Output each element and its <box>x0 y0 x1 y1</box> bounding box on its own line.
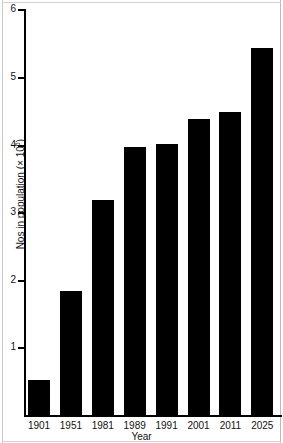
y-axis-tick-label: 5 <box>2 72 16 82</box>
bar-1991 <box>156 144 178 416</box>
x-axis-tick-label: 1991 <box>150 420 184 431</box>
y-axis-title-prefix: Nos in population (× 10 <box>15 146 26 249</box>
y-axis-tick-label: 6 <box>2 4 16 14</box>
bar-1951 <box>60 291 82 416</box>
y-axis-tick-mark <box>18 77 25 79</box>
bar-1981 <box>92 200 114 416</box>
x-axis-tick-label: 1989 <box>118 420 152 431</box>
bar-2001 <box>188 119 210 416</box>
bar-1901 <box>28 380 50 416</box>
bar-chart-plot-area: 654321 19011951198119891991200120112025 … <box>0 0 283 443</box>
y-axis-title: Nos in population (× 106) <box>14 119 26 269</box>
x-axis-tick-label: 1901 <box>22 420 56 431</box>
x-axis-tick-label: 2011 <box>213 420 247 431</box>
x-axis-tick-label: 1981 <box>86 420 120 431</box>
figure-canvas: 654321 19011951198119891991200120112025 … <box>0 0 283 443</box>
x-axis-tick-label: 2001 <box>182 420 216 431</box>
x-axis-tick-label: 2025 <box>245 420 279 431</box>
bar-1989 <box>124 147 146 416</box>
y-axis-tick-mark <box>18 347 25 349</box>
y-axis-tick-mark <box>18 280 25 282</box>
y-axis-tick-label: 1 <box>2 342 16 352</box>
y-axis-title-exponent: 6 <box>14 142 21 146</box>
y-axis-tick-label: 2 <box>2 275 16 285</box>
y-axis-title-suffix: ) <box>15 139 26 142</box>
x-axis-tick-label: 1951 <box>54 420 88 431</box>
bar-2011 <box>219 112 241 416</box>
x-axis-title: Year <box>0 431 283 442</box>
bar-2025 <box>251 48 273 416</box>
y-axis-tick-mark <box>18 9 25 11</box>
